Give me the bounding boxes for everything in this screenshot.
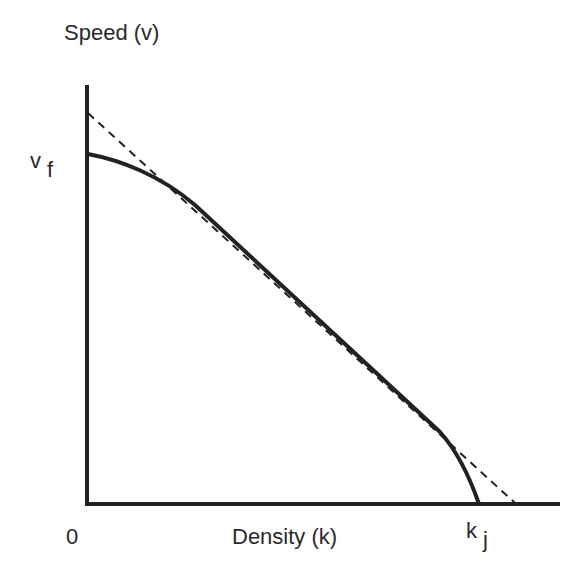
x-axis-label: Density (k) xyxy=(232,524,337,550)
speed-density-plot xyxy=(0,0,587,584)
vf-label: vf xyxy=(30,148,53,174)
speed-density-curve xyxy=(88,154,479,504)
kj-label: kj xyxy=(466,518,488,544)
origin-label: 0 xyxy=(66,524,78,550)
